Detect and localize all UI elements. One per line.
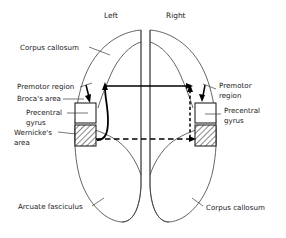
label-premotor-region-right-line2: region bbox=[219, 91, 241, 100]
corpus-callosum-right-arc bbox=[150, 42, 193, 108]
precentral-gyrus-right-box bbox=[195, 103, 216, 123]
label-wernickes-area-line2: area bbox=[14, 138, 30, 147]
premotor-to-broca-arrow-left bbox=[85, 85, 91, 103]
label-precentral-gyrus-left-line1: Precentral bbox=[26, 108, 62, 117]
header-left-label: Left bbox=[104, 11, 118, 20]
label-corpus-callosum-bottom: Corpus callosum bbox=[206, 203, 265, 212]
label-wernickes-area-line1: Wernicke's bbox=[14, 128, 52, 137]
label-brocas-area: Broca's area bbox=[17, 94, 61, 103]
wernickes-area-box bbox=[75, 125, 96, 146]
premotor-to-precentral-arrow-right bbox=[199, 85, 205, 102]
right-hatched-area-box bbox=[195, 125, 216, 146]
label-precentral-gyrus-right-line1: Precentral bbox=[224, 106, 260, 115]
interhemispheric-fissure bbox=[122, 30, 169, 222]
label-precentral-gyrus-right-line2: gyrus bbox=[224, 116, 244, 125]
diagram-canvas: Left Right Corpus callosum Premotor reg bbox=[0, 0, 286, 238]
interhemispheric-solid-arrow bbox=[106, 83, 193, 89]
right-dashed-vertical-arrow bbox=[187, 84, 193, 138]
brain-language-pathway-figure: Left Right Corpus callosum Premotor reg bbox=[0, 0, 286, 238]
label-precentral-gyrus-left-line2: gyrus bbox=[26, 118, 46, 127]
corpus-callosum-left-arc bbox=[98, 42, 141, 108]
header-right-label: Right bbox=[166, 11, 186, 20]
label-premotor-region-left: Premotor region bbox=[17, 82, 74, 91]
label-arcuate-fasciculus: Arcuate fasciculus bbox=[18, 202, 83, 211]
label-corpus-callosum-top: Corpus callosum bbox=[20, 43, 79, 52]
arcuate-fasciculus-left-arc bbox=[95, 130, 141, 175]
label-premotor-region-right-line1: Premotor bbox=[219, 81, 252, 90]
